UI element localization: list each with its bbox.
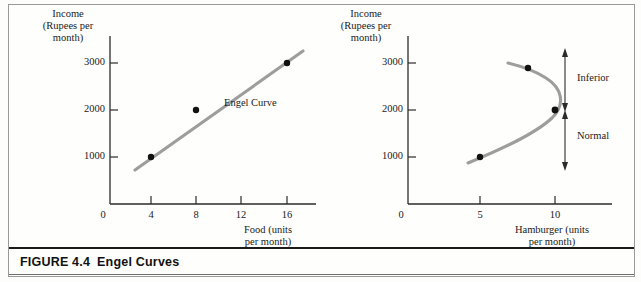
data-point-b-3 xyxy=(525,65,531,71)
panel-b-xlabel-10: 10 xyxy=(547,209,563,221)
panel-b-ylabel-1000: 1000 xyxy=(370,150,403,162)
data-point-b-2 xyxy=(552,107,559,114)
caption-bar: FIGURE 4.4Engel Curves xyxy=(9,249,634,275)
caption-number: FIGURE 4.4 xyxy=(20,255,90,269)
panel-b-region-arrows xyxy=(562,48,568,171)
panel-a-y-axis-title-line3: month) xyxy=(22,32,114,44)
panel-a-origin-label: 0 xyxy=(96,209,110,221)
panel-a-curve-group xyxy=(135,51,303,170)
caption: FIGURE 4.4Engel Curves xyxy=(9,255,179,269)
panel-a-xlabel-8: 8 xyxy=(189,209,203,221)
normal-arrow-head-down xyxy=(562,162,568,171)
data-point-a-3 xyxy=(284,60,290,66)
panel-b-ylabel-3000: 3000 xyxy=(370,56,403,68)
panel-b-axes xyxy=(408,36,612,204)
panel-b-origin-label: 0 xyxy=(394,209,408,221)
panel-a-y-axis-title: Income (Rupees per month) xyxy=(22,8,114,43)
panel-b-curve-group xyxy=(468,63,561,163)
caption-title: Engel Curves xyxy=(97,255,179,269)
panel-a-y-axis-title-line2: (Rupees per xyxy=(22,20,114,32)
panel-b-x-axis-title-line2: per month) xyxy=(492,236,612,248)
figure-root: Income (Rupees per month) 3000 2000 1000… xyxy=(0,0,641,282)
panel-a-x-axis-title: Food (units per month) xyxy=(226,224,310,248)
inferior-arrow-head-up xyxy=(562,48,568,57)
panel-b-y-axis-title-line1: Income xyxy=(320,8,412,20)
panel-a-xlabel-12: 12 xyxy=(234,209,248,221)
panel-b-y-axis-title-line3: month) xyxy=(320,32,412,44)
panel-b-ylabel-2000: 2000 xyxy=(370,103,403,115)
engel-curve-label: Engel Curve xyxy=(224,97,277,109)
data-point-a-2 xyxy=(193,107,199,113)
panel-a-xlabel-16: 16 xyxy=(280,209,294,221)
panel-b-xlabel-5: 5 xyxy=(473,209,487,221)
panel-a-ylabel-3000: 3000 xyxy=(72,56,105,68)
region-label-inferior: Inferior xyxy=(577,72,609,84)
data-point-a-1 xyxy=(148,154,154,160)
panel-b-y-axis-title-line2: (Rupees per xyxy=(320,20,412,32)
data-point-b-1 xyxy=(477,154,483,160)
panel-a-ylabel-2000: 2000 xyxy=(72,103,105,115)
panel-b-y-axis-title: Income (Rupees per month) xyxy=(320,8,412,43)
engel-curve-line-b xyxy=(468,63,561,163)
panel-b-x-axis-title: Hamburger (units per month) xyxy=(492,224,612,248)
caption-rule-bottom xyxy=(9,274,634,275)
panel-a-y-axis-title-line1: Income xyxy=(22,8,114,20)
panel-a-xlabel-4: 4 xyxy=(144,209,158,221)
normal-arrow-head-up xyxy=(562,110,568,119)
panel-a-x-axis-title-line1: Food (units xyxy=(226,224,310,236)
region-label-normal: Normal xyxy=(577,130,609,142)
panel-b-x-axis-title-line1: Hamburger (units xyxy=(492,224,612,236)
engel-curve-line-a xyxy=(135,51,303,170)
panel-a-ylabel-1000: 1000 xyxy=(72,150,105,162)
panel-a-x-axis-title-line2: per month) xyxy=(226,236,310,248)
